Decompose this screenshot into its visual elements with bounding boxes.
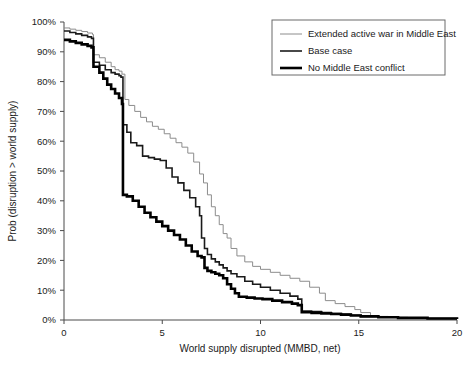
y-axis-ticks: 0%10%20%30%40%50%60%70%80%90%100% xyxy=(32,16,64,325)
legend-label-1: Base case xyxy=(308,45,352,56)
y-tick-label: 90% xyxy=(37,46,57,57)
x-tick-label: 15 xyxy=(353,327,364,338)
y-tick-label: 40% xyxy=(37,195,57,206)
x-tick-label: 0 xyxy=(61,327,66,338)
x-axis-title: World supply disrupted (MMBD, net) xyxy=(180,343,341,354)
y-tick-label: 100% xyxy=(32,16,57,27)
y-tick-label: 20% xyxy=(37,255,57,266)
x-axis-ticks: 05101520 xyxy=(61,320,462,338)
legend-label-2: No Middle East conflict xyxy=(308,62,405,73)
x-tick-label: 5 xyxy=(160,327,165,338)
x-tick-label: 10 xyxy=(255,327,266,338)
y-tick-label: 70% xyxy=(37,106,57,117)
chart-figure: 0%10%20%30%40%50%60%70%80%90%100% 051015… xyxy=(0,0,472,366)
y-tick-label: 30% xyxy=(37,225,57,236)
y-tick-label: 60% xyxy=(37,136,57,147)
legend-label-0: Extended active war in Middle East xyxy=(308,28,456,39)
y-axis-title: Prob (disruption > world supply) xyxy=(7,101,18,242)
y-tick-label: 50% xyxy=(37,165,57,176)
chart-canvas: 0%10%20%30%40%50%60%70%80%90%100% 051015… xyxy=(0,0,472,366)
x-tick-label: 20 xyxy=(452,327,463,338)
y-tick-label: 0% xyxy=(42,314,56,325)
y-tick-label: 80% xyxy=(37,76,57,87)
legend: Extended active war in Middle EastBase c… xyxy=(272,20,456,75)
y-tick-label: 10% xyxy=(37,285,57,296)
